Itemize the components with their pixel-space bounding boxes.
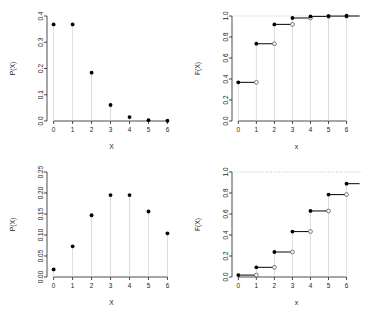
data-point-1 (71, 23, 75, 27)
x-tick-label-5: 5 (147, 126, 151, 133)
open-marker-1 (272, 42, 276, 46)
open-marker-0 (254, 273, 258, 277)
y-tick-label-2: 0.4 (222, 74, 229, 83)
axes-group: 01234560.000.050.100.150.200.25 (37, 165, 169, 289)
open-marker-3 (309, 230, 313, 234)
x-tick-label-3: 3 (291, 282, 295, 289)
y-tick-label-5: 0.25 (37, 165, 44, 178)
x-tick-label-5: 5 (327, 282, 331, 289)
x-tick-label-3: 3 (109, 126, 113, 133)
x-tick-label-3: 3 (109, 282, 113, 289)
x-tick-label-4: 4 (128, 126, 132, 133)
y-tick-label-1: 0.05 (37, 249, 44, 262)
data-point-5 (147, 118, 151, 122)
closed-marker-6 (345, 14, 349, 18)
panel-cdf-lambda-4: 01234560.00.20.40.60.81.0xF(X) (185, 156, 369, 311)
data-point-4 (128, 115, 132, 119)
y-tick-label-4: 0.8 (222, 188, 229, 197)
x-tick-label-4: 4 (128, 282, 132, 289)
x-tick-label-0: 0 (52, 126, 56, 133)
x-tick-label-2: 2 (273, 282, 277, 289)
data-point-0 (52, 23, 56, 27)
y-tick-label-4: 0.8 (222, 32, 229, 41)
data-group (52, 193, 170, 277)
data-point-6 (166, 231, 170, 235)
y-tick-label-2: 0.2 (37, 64, 44, 73)
x-tick-label-5: 5 (327, 126, 331, 133)
x-tick-label-2: 2 (90, 126, 94, 133)
open-marker-1 (272, 265, 276, 269)
closed-marker-6 (345, 182, 349, 186)
y-tick-label-3: 0.3 (37, 37, 44, 46)
y-tick-label-3: 0.6 (222, 209, 229, 218)
x-tick-label-6: 6 (345, 126, 349, 133)
y-axis-title: P(X) (9, 218, 17, 232)
chart-svg-0: 01234560.00.10.20.30.4XP(X) (0, 0, 184, 155)
data-point-4 (128, 193, 132, 197)
chart-svg-2: 01234560.000.050.100.150.200.25XP(X) (0, 156, 184, 311)
closed-marker-3 (291, 16, 295, 20)
x-tick-label-1: 1 (71, 282, 75, 289)
x-tick-label-0: 0 (52, 282, 56, 289)
y-tick-label-3: 0.15 (37, 207, 44, 220)
closed-marker-0 (236, 273, 240, 277)
x-tick-label-4: 4 (309, 126, 313, 133)
chart-svg-1: 01234560.00.20.40.60.81.0xF(X) (185, 0, 369, 155)
open-marker-2 (291, 250, 295, 254)
closed-marker-0 (236, 80, 240, 84)
y-tick-label-1: 0.1 (37, 90, 44, 99)
closed-marker-5 (327, 14, 331, 18)
x-tick-label-4: 4 (309, 282, 313, 289)
y-tick-label-2: 0.4 (222, 230, 229, 239)
x-tick-label-1: 1 (255, 282, 259, 289)
x-tick-label-6: 6 (166, 126, 170, 133)
x-tick-label-6: 6 (166, 282, 170, 289)
y-axis-title: F(X) (194, 218, 202, 231)
data-point-1 (71, 244, 75, 248)
panel-pmf-lambda-1: 01234560.00.10.20.30.4XP(X) (0, 0, 184, 155)
y-tick-label-1: 0.2 (222, 251, 229, 260)
y-axis-title: P(X) (9, 62, 17, 76)
closed-marker-4 (309, 209, 313, 213)
y-tick-label-2: 0.10 (37, 228, 44, 241)
data-point-2 (90, 213, 94, 217)
figure-panel-grid: 01234560.00.10.20.30.4XP(X) 01234560.00.… (0, 0, 369, 311)
chart-svg-3: 01234560.00.20.40.60.81.0xF(X) (185, 156, 369, 311)
panel-cdf-lambda-1: 01234560.00.20.40.60.81.0xF(X) (185, 0, 369, 155)
open-marker-5 (345, 193, 349, 197)
data-point-0 (52, 268, 56, 272)
data-point-6 (166, 119, 170, 123)
x-tick-label-3: 3 (291, 126, 295, 133)
y-tick-label-4: 0.20 (37, 186, 44, 199)
y-tick-label-5: 1.0 (222, 167, 229, 176)
x-tick-label-1: 1 (255, 126, 259, 133)
y-tick-label-0: 0.00 (37, 270, 44, 283)
open-marker-4 (327, 209, 331, 213)
panel-pmf-lambda-4: 01234560.000.050.100.150.200.25XP(X) (0, 156, 184, 311)
y-tick-label-0: 0.0 (37, 116, 44, 125)
open-marker-2 (291, 23, 295, 27)
axes-group: 01234560.00.20.40.60.81.0 (222, 11, 348, 133)
x-axis-title: x (295, 143, 299, 150)
data-point-3 (109, 193, 113, 197)
closed-marker-3 (291, 230, 295, 234)
closed-marker-2 (272, 250, 276, 254)
closed-marker-1 (254, 265, 258, 269)
x-axis-title: X (109, 299, 114, 306)
open-marker-0 (254, 80, 258, 84)
closed-marker-4 (309, 15, 313, 19)
x-tick-label-1: 1 (71, 126, 75, 133)
data-point-2 (90, 71, 94, 75)
axes-group: 01234560.00.20.40.60.81.0 (222, 167, 348, 289)
closed-marker-2 (272, 23, 276, 27)
x-tick-label-5: 5 (147, 282, 151, 289)
x-tick-label-0: 0 (237, 282, 241, 289)
data-point-5 (147, 210, 151, 214)
x-tick-label-6: 6 (345, 282, 349, 289)
x-tick-label-2: 2 (90, 282, 94, 289)
data-point-3 (109, 103, 113, 107)
y-tick-label-0: 0.0 (222, 116, 229, 125)
closed-marker-1 (254, 42, 258, 46)
y-tick-label-1: 0.2 (222, 95, 229, 104)
y-tick-label-3: 0.6 (222, 53, 229, 62)
